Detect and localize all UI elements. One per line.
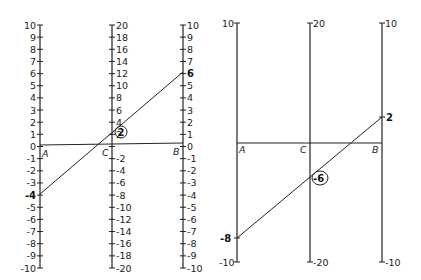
left-label-a: A [41, 148, 49, 159]
tick-label: -1 [187, 153, 196, 164]
tick-label: -6 [187, 214, 196, 225]
tick-label: 14 [116, 56, 128, 67]
tick-label: 6 [116, 105, 122, 116]
tick-label: 1 [30, 129, 36, 140]
tick-label: -10 [116, 202, 132, 213]
tick-label: 3 [30, 105, 36, 116]
tick-label: 12 [116, 68, 128, 79]
tick-label: 10 [24, 20, 36, 31]
tick-label: 1 [187, 129, 193, 140]
tick-label: 8 [30, 44, 36, 55]
tick-label: -4 [187, 190, 196, 201]
tick-label: -3 [187, 177, 196, 188]
tick-label: 18 [116, 32, 128, 43]
tick-label: -20 [116, 263, 132, 274]
tick-label: -12 [116, 214, 132, 225]
tick-label: 8 [116, 92, 122, 103]
tick-label: -2 [27, 165, 36, 176]
right-b-top: 10 [385, 18, 397, 29]
tick-label: -9 [27, 250, 36, 261]
tick-label: -1 [27, 153, 36, 164]
right-a-top: 10 [222, 18, 234, 29]
tick-label: -8 [27, 238, 36, 249]
tick-label: -10 [20, 263, 36, 274]
right-a-bottom: -10 [219, 257, 235, 268]
tick-label: 6 [187, 68, 194, 79]
tick-label: 4 [30, 92, 36, 103]
tick-label: 10 [116, 80, 128, 91]
tick-label: -7 [27, 226, 36, 237]
tick-label: 8 [187, 44, 193, 55]
tick-label: 5 [30, 80, 36, 91]
tick-label: -18 [116, 250, 132, 261]
tick-label: 9 [30, 32, 36, 43]
tick-label: 6 [30, 68, 36, 79]
tick-label: -3 [27, 177, 36, 188]
tick-label: -7 [187, 226, 196, 237]
tick-label: -4 [25, 190, 36, 201]
left-label-b: B [173, 146, 180, 157]
tick-label: 0 [30, 141, 36, 152]
left-result-value: 2 [118, 127, 125, 138]
right-a-value: -8 [220, 233, 231, 244]
left-label-c: C [102, 147, 109, 158]
tick-label: 2 [30, 117, 36, 128]
right-c-top: 20 [313, 18, 325, 29]
tick-label: -5 [187, 202, 196, 213]
tick-label: 10 [187, 20, 199, 31]
tick-label: -9 [187, 250, 196, 261]
tick-label: -8 [187, 238, 196, 249]
tick-label: -6 [116, 177, 125, 188]
tick-label: -10 [187, 263, 203, 274]
tick-label: 2 [187, 117, 193, 128]
right-result-value: -6 [313, 173, 324, 184]
tick-label: -6 [27, 214, 36, 225]
left-nomogram: 109876543210-1-2-3-4-5-6-7-8-9-10 201816… [20, 20, 202, 274]
right-b-bottom: -10 [385, 257, 401, 268]
tick-label: 5 [187, 80, 193, 91]
tick-label: 0 [187, 141, 193, 152]
tick-label: -8 [116, 190, 125, 201]
tick-label: 7 [187, 56, 193, 67]
tick-label: 4 [187, 92, 193, 103]
nomogram-figure: 109876543210-1-2-3-4-5-6-7-8-9-10 201816… [0, 0, 421, 280]
tick-label: 7 [30, 56, 36, 67]
tick-label: 9 [187, 32, 193, 43]
right-nomogram: 10 -10 20 -20 10 -10 -8 2 A C B -6 [219, 18, 401, 268]
tick-label: -2 [116, 153, 125, 164]
right-label-b: B [372, 144, 379, 155]
tick-label: -5 [27, 202, 36, 213]
tick-label: 16 [116, 44, 128, 55]
tick-label: -4 [116, 165, 125, 176]
right-b-value: 2 [386, 112, 393, 123]
tick-label: -16 [116, 238, 132, 249]
tick-label: -14 [116, 226, 132, 237]
tick-label: 20 [116, 20, 128, 31]
right-label-c: C [300, 144, 307, 155]
right-c-bottom: -20 [313, 257, 329, 268]
right-label-a: A [238, 144, 246, 155]
tick-label: -2 [187, 165, 196, 176]
tick-label: 3 [187, 105, 193, 116]
